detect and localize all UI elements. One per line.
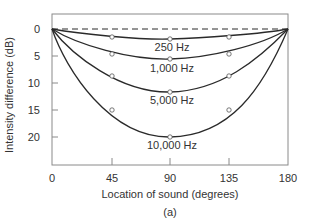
xtick-180: 180 — [279, 172, 297, 184]
x-axis-tick-labels: 0 45 90 135 180 — [49, 172, 297, 184]
marker-1000hz-45 — [110, 52, 114, 56]
marker-250hz-45 — [110, 35, 114, 39]
ytick-0: 0 — [34, 23, 40, 35]
chart-canvas: 0 5 10 15 20 0 45 90 135 180 Location of… — [0, 0, 314, 224]
series-label-250hz: 250 Hz — [155, 41, 190, 53]
ytick-10: 10 — [28, 77, 40, 89]
marker-10000hz-135 — [227, 108, 231, 112]
y-axis-label: Intensity difference (dB) — [3, 37, 15, 153]
xtick-135: 135 — [220, 172, 238, 184]
marker-5000hz-45 — [110, 74, 114, 78]
marker-1000hz-90 — [168, 57, 172, 61]
ytick-5: 5 — [34, 50, 40, 62]
y-axis-ticks — [52, 56, 58, 137]
series-label-10000hz: 10,000 Hz — [147, 139, 197, 151]
ytick-20: 20 — [28, 131, 40, 143]
xtick-0: 0 — [49, 172, 55, 184]
series-label-5000hz: 5,000 Hz — [150, 94, 194, 106]
x-axis-ticks — [112, 158, 229, 165]
xtick-45: 45 — [106, 172, 118, 184]
x-axis-label: Location of sound (degrees) — [102, 188, 239, 200]
marker-250hz-135 — [227, 35, 231, 39]
marker-5000hz-135 — [227, 74, 231, 78]
xtick-90: 90 — [164, 172, 176, 184]
figure-caption: (a) — [163, 206, 176, 218]
y-axis-tick-labels: 0 5 10 15 20 — [28, 23, 40, 143]
marker-1000hz-135 — [227, 52, 231, 56]
series-label-1000hz: 1,000 Hz — [150, 62, 194, 74]
marker-10000hz-45 — [110, 108, 114, 112]
ytick-15: 15 — [28, 104, 40, 116]
